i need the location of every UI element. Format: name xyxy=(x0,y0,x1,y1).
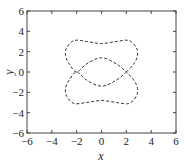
y-tick-label: 0 xyxy=(19,66,25,78)
axis-ticks: −6−4−20246−6−4−20246 xyxy=(12,5,179,147)
x-tick-label: −4 xyxy=(46,135,58,147)
x-tick-label: −2 xyxy=(71,135,83,147)
y-axis-label: y xyxy=(2,69,16,76)
x-tick-label: 6 xyxy=(173,135,179,147)
plot-frame xyxy=(27,11,176,133)
y-tick-label: −2 xyxy=(12,86,24,98)
x-tick-label: 2 xyxy=(124,135,130,147)
x-tick-label: 4 xyxy=(148,135,154,147)
y-tick-label: 6 xyxy=(19,5,25,17)
data-curve xyxy=(65,40,137,104)
y-tick-label: −4 xyxy=(12,107,24,119)
y-tick-label: −6 xyxy=(12,127,24,139)
y-tick-label: 4 xyxy=(19,25,25,37)
chart: −6−4−20246−6−4−20246 x y xyxy=(0,0,189,168)
x-axis-label: x xyxy=(97,149,104,163)
y-tick-label: 2 xyxy=(19,46,25,58)
x-tick-label: 0 xyxy=(99,135,105,147)
